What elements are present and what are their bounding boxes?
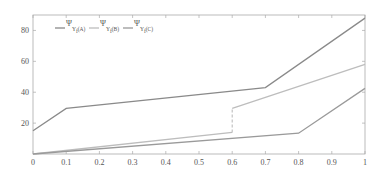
y-axis: 20406080 xyxy=(21,26,365,128)
x-tick-label: 0.8 xyxy=(294,158,304,167)
y-tick-label: 20 xyxy=(21,119,29,128)
x-tick-label: 1 xyxy=(363,158,367,167)
x-tick-label: 0.5 xyxy=(194,158,204,167)
x-tick-label: 0.7 xyxy=(260,158,270,167)
legend-label: ΨYf(B) xyxy=(100,19,119,34)
legend-item-1: ΨYf(B) xyxy=(89,19,119,34)
x-tick-label: 0.1 xyxy=(61,158,71,167)
legend-item-2: ΨYf(C) xyxy=(123,19,153,34)
legend-item-0: ΨYf(A) xyxy=(55,19,86,34)
series-line-0 xyxy=(33,18,365,131)
legend: ΨYf(A)ΨYf(B)ΨYf(C) xyxy=(55,19,153,34)
plot-border xyxy=(33,15,365,154)
y-tick-label: 40 xyxy=(21,88,29,97)
x-tick-label: 0.6 xyxy=(227,158,237,167)
x-tick-label: 0.2 xyxy=(94,158,104,167)
legend-label: ΨYf(C) xyxy=(134,19,153,34)
line-chart: 00.10.20.30.40.50.60.70.80.91 20406080 Ψ… xyxy=(0,0,385,177)
series-lines xyxy=(33,18,365,154)
x-tick-label: 0 xyxy=(31,158,35,167)
y-tick-label: 60 xyxy=(21,57,29,66)
series-line-1 xyxy=(33,132,232,154)
plot-frame xyxy=(33,15,365,154)
y-tick-label: 80 xyxy=(21,26,29,35)
legend-label: ΨYf(A) xyxy=(66,19,86,34)
series-line-2 xyxy=(33,88,365,154)
x-tick-label: 0.4 xyxy=(161,158,171,167)
x-axis: 00.10.20.30.40.50.60.70.80.91 xyxy=(31,15,367,167)
x-tick-label: 0.3 xyxy=(128,158,138,167)
x-tick-label: 0.9 xyxy=(327,158,337,167)
